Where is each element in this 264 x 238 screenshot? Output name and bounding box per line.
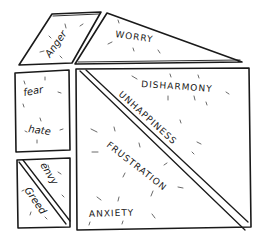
fear-hate-shape: fear hate (15, 70, 70, 152)
disharmony-label: DISHARMONY (141, 79, 213, 94)
emotion-shapes-diagram: Anger WORRY fear hate envy Gre (0, 0, 264, 238)
envy-greed-shape: envy Greed (17, 158, 70, 228)
anxiety-label: ANXIETY (89, 207, 135, 219)
hate-label: hate (28, 123, 52, 137)
worry-label: WORRY (115, 29, 154, 44)
unhappiness-label: UNHAPPINESS (117, 89, 179, 146)
anger-label: Anger (42, 28, 69, 60)
anger-shape: Anger (19, 12, 101, 65)
large-square-shape (76, 68, 251, 230)
fear-label: fear (22, 84, 44, 98)
worry-shape: WORRY (75, 13, 242, 64)
